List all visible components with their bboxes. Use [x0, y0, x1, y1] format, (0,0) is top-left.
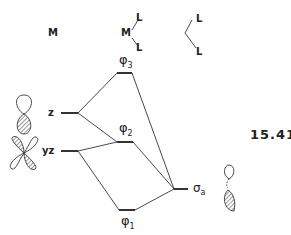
- sigma-a-label: σa: [193, 182, 206, 197]
- ligand-bottom-label: L: [196, 47, 202, 57]
- complex-ligand-bottom-label: L: [136, 43, 142, 53]
- figure-number: 15.41: [250, 128, 291, 141]
- phi3-label: φ3: [119, 53, 133, 70]
- dyz-orbital-icon: [10, 136, 38, 169]
- ligand-top-label: L: [196, 14, 202, 24]
- complex-metal-label: M: [121, 28, 131, 38]
- z-orbital-label: z: [48, 108, 54, 118]
- metal-label: M: [48, 28, 58, 38]
- phi2-label: φ2: [119, 121, 133, 138]
- phi1-label: φ1: [121, 214, 135, 231]
- complex-ligand-top-label: L: [136, 13, 142, 23]
- yz-orbital-label: yz: [42, 146, 54, 156]
- pz-orbital-icon: [17, 95, 32, 134]
- sigma-orbital-icon: [224, 165, 234, 211]
- mo-diagram-lines: [0, 0, 291, 235]
